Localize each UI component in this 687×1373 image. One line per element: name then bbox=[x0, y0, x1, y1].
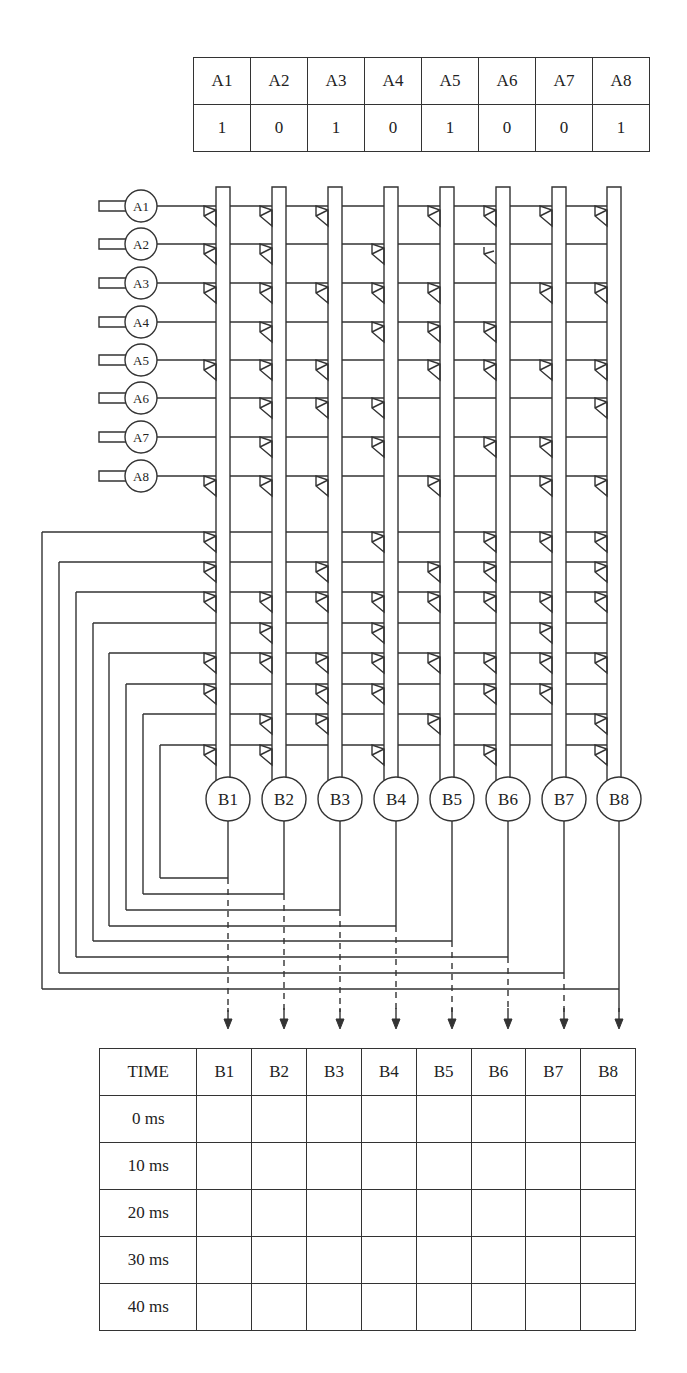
synapse-icon bbox=[204, 532, 216, 552]
cell-b5[interactable] bbox=[416, 1284, 471, 1331]
synapse-icon bbox=[316, 562, 328, 582]
synapse-icon bbox=[484, 684, 496, 704]
cell-b3[interactable] bbox=[307, 1190, 362, 1237]
synapse-icon bbox=[260, 623, 272, 643]
header-b2: B2 bbox=[252, 1049, 307, 1096]
input-neuron-stem bbox=[99, 355, 127, 365]
input-neuron-stem bbox=[99, 239, 127, 249]
cell-b5[interactable] bbox=[416, 1237, 471, 1284]
time-row-30ms: 30 ms bbox=[100, 1237, 636, 1284]
synapse-icon bbox=[260, 206, 272, 226]
synapse-icon bbox=[428, 714, 440, 734]
synapse-icon bbox=[372, 592, 384, 612]
cell-b7[interactable] bbox=[526, 1237, 581, 1284]
time-label: 10 ms bbox=[100, 1143, 197, 1190]
arrow-down-icon bbox=[560, 1019, 568, 1029]
synapse-icon bbox=[595, 398, 607, 418]
cell-b5[interactable] bbox=[416, 1190, 471, 1237]
output-neuron-label: B3 bbox=[330, 790, 350, 809]
cell-b7[interactable] bbox=[526, 1096, 581, 1143]
synapse-icon bbox=[595, 562, 607, 582]
cell-b3[interactable] bbox=[307, 1096, 362, 1143]
time-label: 0 ms bbox=[100, 1096, 197, 1143]
output-neuron-label: B7 bbox=[554, 790, 574, 809]
cell-b1[interactable] bbox=[197, 1284, 252, 1331]
cell-b8[interactable] bbox=[581, 1284, 636, 1331]
input-neuron-label: A4 bbox=[133, 315, 149, 330]
cell-b7[interactable] bbox=[526, 1143, 581, 1190]
output-neuron-label: B6 bbox=[498, 790, 518, 809]
header-b5: B5 bbox=[416, 1049, 471, 1096]
synapse-icon bbox=[540, 206, 552, 226]
synapse-icon bbox=[540, 360, 552, 380]
time-label: 30 ms bbox=[100, 1237, 197, 1284]
arrow-down-icon bbox=[392, 1019, 400, 1029]
cell-b8[interactable] bbox=[581, 1143, 636, 1190]
arrow-down-icon bbox=[448, 1019, 456, 1029]
cell-b4[interactable] bbox=[361, 1284, 416, 1331]
dendrite-rail-b1 bbox=[216, 187, 230, 780]
cell-b2[interactable] bbox=[252, 1284, 307, 1331]
cell-b6[interactable] bbox=[471, 1143, 526, 1190]
synapse-icon bbox=[204, 206, 216, 226]
cell-b5[interactable] bbox=[416, 1143, 471, 1190]
synapse-icon bbox=[204, 360, 216, 380]
synapse-icon bbox=[372, 244, 384, 264]
cell-b1[interactable] bbox=[197, 1143, 252, 1190]
synapse-icon bbox=[484, 532, 496, 552]
time-label: 40 ms bbox=[100, 1284, 197, 1331]
output-time-table: TIME B1 B2 B3 B4 B5 B6 B7 B8 0 ms 10 ms bbox=[99, 1048, 636, 1331]
cell-b3[interactable] bbox=[307, 1143, 362, 1190]
synapse-icon bbox=[204, 244, 216, 264]
cell-b4[interactable] bbox=[361, 1096, 416, 1143]
synapse-icon bbox=[260, 360, 272, 380]
synapse-icon bbox=[204, 745, 216, 765]
cell-b6[interactable] bbox=[471, 1237, 526, 1284]
synapse-icon bbox=[595, 476, 607, 496]
cell-b2[interactable] bbox=[252, 1237, 307, 1284]
header-b3: B3 bbox=[307, 1049, 362, 1096]
cell-b2[interactable] bbox=[252, 1143, 307, 1190]
cell-b6[interactable] bbox=[471, 1096, 526, 1143]
arrow-down-icon bbox=[615, 1019, 623, 1029]
input-neuron-label: A7 bbox=[133, 430, 149, 445]
synapse-icon bbox=[372, 437, 384, 457]
input-neuron-label: A5 bbox=[133, 353, 149, 368]
cell-b2[interactable] bbox=[252, 1096, 307, 1143]
cell-b3[interactable] bbox=[307, 1237, 362, 1284]
cell-b8[interactable] bbox=[581, 1237, 636, 1284]
synapse-icon bbox=[204, 592, 216, 612]
cell-b6[interactable] bbox=[471, 1284, 526, 1331]
cell-b4[interactable] bbox=[361, 1190, 416, 1237]
synapse-icon bbox=[372, 653, 384, 673]
synapse-icon bbox=[260, 322, 272, 342]
synapse-icon bbox=[372, 322, 384, 342]
cell-b8[interactable] bbox=[581, 1190, 636, 1237]
synapse-icon bbox=[484, 206, 496, 226]
cell-b3[interactable] bbox=[307, 1284, 362, 1331]
cell-b7[interactable] bbox=[526, 1190, 581, 1237]
cell-b4[interactable] bbox=[361, 1143, 416, 1190]
cell-b6[interactable] bbox=[471, 1190, 526, 1237]
cell-b1[interactable] bbox=[197, 1096, 252, 1143]
synapse-icon bbox=[372, 283, 384, 303]
cell-b1[interactable] bbox=[197, 1190, 252, 1237]
synapse-icon bbox=[428, 360, 440, 380]
synapse-icon bbox=[316, 592, 328, 612]
cell-b1[interactable] bbox=[197, 1237, 252, 1284]
time-row-0ms: 0 ms bbox=[100, 1096, 636, 1143]
cell-b2[interactable] bbox=[252, 1190, 307, 1237]
open-synapse-icon bbox=[484, 247, 496, 264]
arrow-down-icon bbox=[336, 1019, 344, 1029]
cell-b7[interactable] bbox=[526, 1284, 581, 1331]
associative-network-diagram: A1 A2 A3 A4 A5 A6 A7 A8 1 0 1 0 1 0 0 1 … bbox=[0, 0, 687, 1373]
header-b1: B1 bbox=[197, 1049, 252, 1096]
synapse-icon bbox=[595, 714, 607, 734]
dendrite-rail-b4 bbox=[384, 187, 398, 780]
cell-b8[interactable] bbox=[581, 1096, 636, 1143]
synapse-icon bbox=[428, 653, 440, 673]
time-row-40ms: 40 ms bbox=[100, 1284, 636, 1331]
output-neuron-label: B4 bbox=[386, 790, 406, 809]
cell-b5[interactable] bbox=[416, 1096, 471, 1143]
cell-b4[interactable] bbox=[361, 1237, 416, 1284]
